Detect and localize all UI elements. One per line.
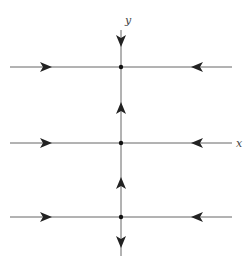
phase-portrait-diagram: y x (0, 0, 252, 266)
equilibrium-point-top (119, 65, 123, 69)
equilibrium-point-bottom (119, 215, 123, 219)
x-axis-label: x (236, 137, 243, 150)
y-axis-label: y (124, 14, 132, 27)
equilibrium-point-origin (119, 141, 123, 145)
diagram-svg: y x (0, 0, 252, 266)
